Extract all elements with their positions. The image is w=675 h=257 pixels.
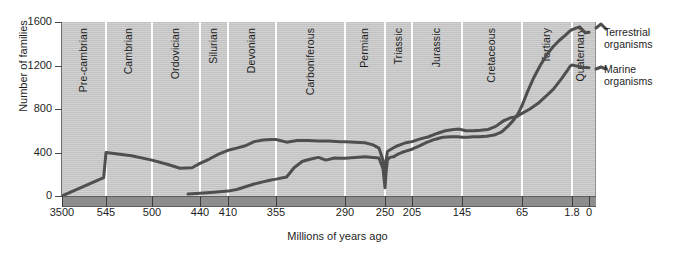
biodiversity-chart-figure: Pre-cambrianCambrianOrdovicianSilurianDe… (0, 0, 675, 257)
data-curves (0, 0, 675, 257)
legend-item-marine: Marine organisms (604, 63, 652, 87)
legend-item-terrestrial: Terrestrial organisms (604, 26, 652, 50)
legend-terrestrial-line2: organisms (604, 38, 652, 50)
legend-marine-line2: organisms (604, 75, 652, 87)
legend-marine-line1: Marine (604, 63, 652, 75)
marine-organisms-curve (62, 65, 589, 196)
legend-terrestrial-line1: Terrestrial (604, 26, 652, 38)
